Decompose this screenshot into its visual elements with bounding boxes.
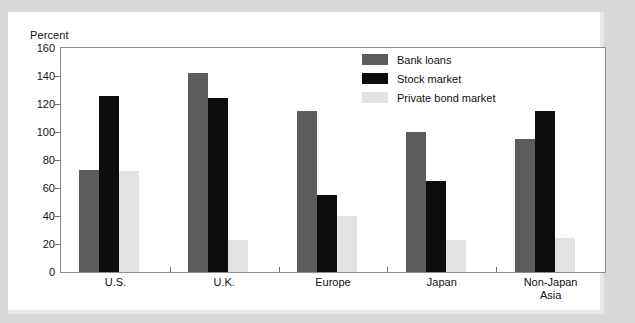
- y-axis-tick-label: 140: [37, 70, 55, 82]
- bar-stock: [426, 181, 446, 272]
- y-axis-tick-label: 100: [37, 126, 55, 138]
- y-axis-tick-label: 40: [43, 210, 55, 222]
- bar-bond: [228, 240, 248, 272]
- legend-swatch-loans: [362, 54, 388, 65]
- legend-label: Private bond market: [397, 92, 495, 104]
- bar-stock: [535, 111, 555, 272]
- x-axis-category-label: Europe: [279, 276, 388, 289]
- x-axis-category-label: U.S.: [61, 276, 170, 289]
- y-axis-title: Percent: [30, 29, 69, 41]
- legend-swatch-stock: [362, 73, 388, 84]
- legend-item: Stock market: [362, 69, 542, 88]
- y-axis-tick-label: 80: [43, 154, 55, 166]
- y-axis-tick-label: 20: [43, 238, 55, 250]
- bar-bond: [337, 216, 357, 272]
- bar-loans: [79, 170, 99, 272]
- legend-item: Bank loans: [362, 50, 542, 69]
- x-axis-category-label: Non-Japan Asia: [496, 276, 605, 302]
- chart-figure: Percent 020406080100120140160 U.S.U.K.Eu…: [0, 0, 635, 323]
- bar-loans: [406, 132, 426, 272]
- legend-label: Stock market: [397, 73, 461, 85]
- bar-bond: [555, 238, 575, 272]
- bar-stock: [208, 98, 228, 272]
- y-axis-labels: 020406080100120140160: [18, 48, 55, 272]
- y-axis-tick-label: 160: [37, 42, 55, 54]
- y-axis-tick-label: 120: [37, 98, 55, 110]
- page-edge-bottom: [8, 310, 604, 314]
- bar-loans: [297, 111, 317, 272]
- legend-label: Bank loans: [397, 54, 451, 66]
- y-axis-tick-label: 60: [43, 182, 55, 194]
- legend-item: Private bond market: [362, 88, 542, 107]
- bar-loans: [515, 139, 535, 272]
- bar-loans: [188, 73, 208, 272]
- bar-group: [170, 48, 279, 272]
- x-axis-category-label: U.K.: [170, 276, 279, 289]
- bar-bond: [119, 171, 139, 272]
- bar-bond: [446, 240, 466, 272]
- y-axis-tick-label: 0: [49, 266, 55, 278]
- x-axis-labels: U.S.U.K.EuropeJapanNon-Japan Asia: [61, 276, 605, 310]
- x-axis-category-label: Japan: [387, 276, 496, 289]
- bar-stock: [99, 96, 119, 272]
- bar-group: [61, 48, 170, 272]
- chart-legend: Bank loansStock marketPrivate bond marke…: [362, 50, 542, 107]
- bar-stock: [317, 195, 337, 272]
- legend-swatch-bond: [362, 92, 388, 103]
